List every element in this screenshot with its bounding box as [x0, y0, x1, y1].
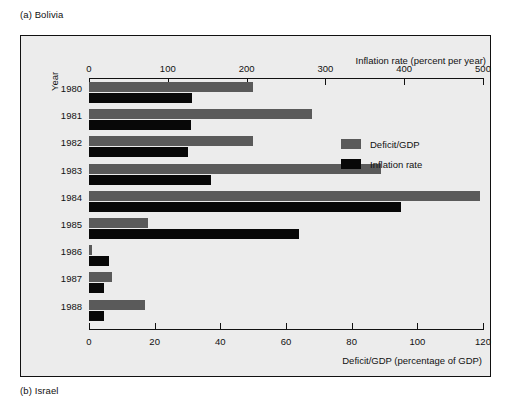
bottom-axis-tick: [220, 323, 221, 330]
bottom-axis-tick: [417, 323, 418, 330]
bottom-axis-tick-label: 100: [409, 336, 425, 347]
bottom-axis-tick-label: 60: [281, 336, 292, 347]
bottom-axis-tick: [286, 323, 287, 330]
legend-item: Inflation rate: [341, 156, 422, 172]
bar-inflation-rate: [89, 147, 188, 157]
bar-group: 1988: [89, 300, 483, 322]
top-axis-tick-label: 500: [475, 63, 491, 74]
top-axis-tick-label: 300: [317, 63, 333, 74]
y-axis-title: Year: [49, 72, 60, 91]
bar-inflation-rate: [89, 175, 211, 185]
top-axis-title: Inflation rate (percent per year): [356, 55, 486, 66]
bar-inflation-rate: [89, 120, 191, 130]
bottom-axis-tick: [483, 323, 484, 330]
bar-inflation-rate: [89, 311, 104, 321]
bar-group: 1984: [89, 191, 483, 213]
bar-deficit-gdp: [89, 136, 253, 146]
legend-swatch-icon: [341, 159, 361, 169]
bar-group: 1980: [89, 82, 483, 104]
legend-swatch-icon: [341, 139, 361, 149]
year-label: 1988: [61, 301, 82, 312]
top-axis-tick-label: 200: [239, 63, 255, 74]
year-label: 1982: [61, 137, 82, 148]
bar-inflation-rate: [89, 229, 299, 239]
bottom-axis-tick-label: 80: [346, 336, 357, 347]
bar-deficit-gdp: [89, 300, 145, 310]
year-label: 1984: [61, 192, 82, 203]
bottom-axis-tick-label: 120: [475, 336, 491, 347]
bar-deficit-gdp: [89, 109, 312, 119]
bar-group: 1986: [89, 245, 483, 267]
bar-deficit-gdp: [89, 82, 253, 92]
year-label: 1987: [61, 273, 82, 284]
bar-deficit-gdp: [89, 191, 480, 201]
figure-caption-bottom: (b) Israel: [20, 385, 58, 396]
chart-panel: Inflation rate (percent per year) Defici…: [20, 35, 491, 377]
bar-group: 1981: [89, 109, 483, 131]
bar-inflation-rate: [89, 93, 192, 103]
plot-area: 0100200300400500 020406080100120 1980198…: [89, 78, 483, 330]
legend-item: Deficit/GDP: [341, 136, 422, 152]
bar-inflation-rate: [89, 202, 401, 212]
bar-deficit-gdp: [89, 218, 148, 228]
bar-group: 1985: [89, 218, 483, 240]
figure-caption-top: (a) Bolivia: [20, 9, 63, 20]
bar-inflation-rate: [89, 283, 104, 293]
bottom-axis-tick-label: 20: [149, 336, 160, 347]
top-axis-tick-label: 0: [86, 63, 91, 74]
bar-inflation-rate: [89, 256, 109, 266]
bottom-axis-tick: [352, 323, 353, 330]
year-label: 1981: [61, 110, 82, 121]
top-axis-tick-label: 400: [396, 63, 412, 74]
legend-label: Deficit/GDP: [370, 139, 420, 150]
chart-legend: Deficit/GDPInflation rate: [341, 136, 422, 176]
bar-deficit-gdp: [89, 272, 112, 282]
bottom-axis-tick: [89, 323, 90, 330]
year-label: 1980: [61, 83, 82, 94]
bottom-axis-tick-label: 0: [86, 336, 91, 347]
bottom-axis-tick-label: 40: [215, 336, 226, 347]
top-axis-tick-label: 100: [160, 63, 176, 74]
bar-group: 1982: [89, 136, 483, 158]
top-axis-tick: [483, 78, 484, 85]
year-label: 1986: [61, 246, 82, 257]
bar-deficit-gdp: [89, 245, 92, 255]
legend-label: Inflation rate: [370, 159, 422, 170]
bar-deficit-gdp: [89, 164, 381, 174]
bar-group: 1987: [89, 272, 483, 294]
year-label: 1983: [61, 165, 82, 176]
figure-root: (a) Bolivia Inflation rate (percent per …: [0, 0, 511, 406]
bottom-axis-title: Deficit/GDP (percentage of GDP): [342, 355, 482, 366]
top-axis-line: [89, 78, 483, 79]
bottom-axis-tick: [155, 323, 156, 330]
bar-group: 1983: [89, 164, 483, 186]
year-label: 1985: [61, 219, 82, 230]
